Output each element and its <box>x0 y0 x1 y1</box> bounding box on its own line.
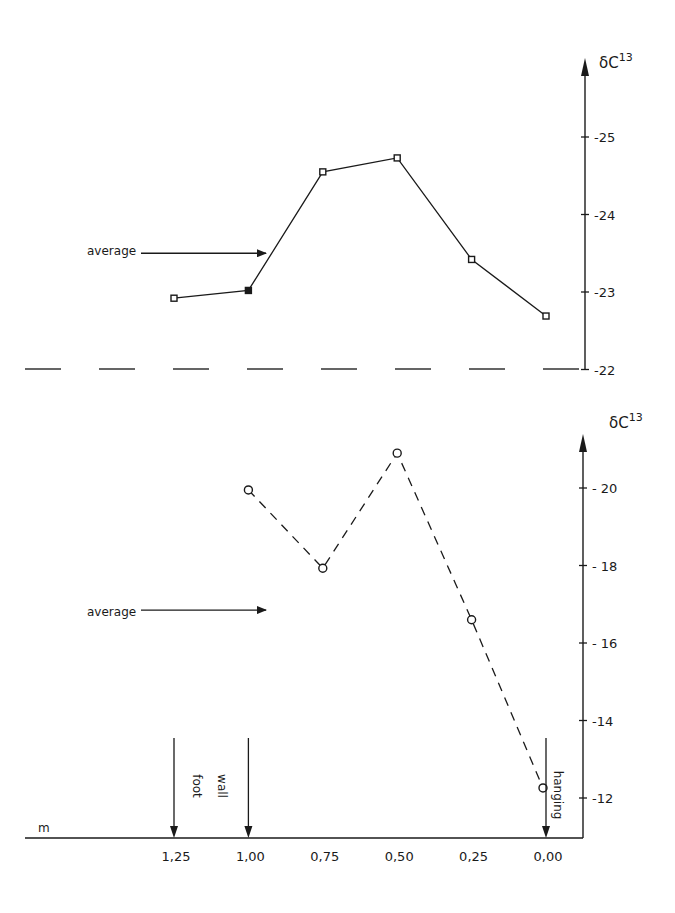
lower-y-tick-label: -14 <box>592 714 613 729</box>
boundary-marker-arrowhead <box>542 826 550 838</box>
lower-y-tick-label: - 20 <box>592 481 617 496</box>
x-tick-label: 0,75 <box>310 849 339 864</box>
upper-y-tick-label: -23 <box>594 285 615 300</box>
lower-series-points <box>244 449 547 792</box>
upper-panel: δC13 -25-24-23-22 average <box>25 51 633 378</box>
lower-average-label: average <box>87 605 136 619</box>
lower-average-annotation: average <box>87 605 266 619</box>
x-tick-label: 0,50 <box>385 849 414 864</box>
upper-data-point <box>469 256 475 262</box>
upper-y-axis-label: δC13 <box>599 51 633 72</box>
upper-average-annotation: average <box>87 244 266 258</box>
lower-data-point <box>393 449 401 457</box>
hanging-label: hanging <box>551 771 565 820</box>
x-axis-unit-label: m <box>38 821 50 835</box>
lower-y-tick-label: -12 <box>592 791 613 806</box>
upper-series-line <box>174 158 546 316</box>
lower-data-point <box>468 616 476 624</box>
lower-series-line <box>248 453 543 788</box>
x-tick-label: 1,00 <box>236 849 265 864</box>
upper-data-point <box>245 287 251 293</box>
x-tick-label: 0,25 <box>459 849 488 864</box>
upper-average-label: average <box>87 244 136 258</box>
lower-data-point <box>244 486 252 494</box>
x-tick-label: 0,00 <box>534 849 563 864</box>
upper-series-points <box>171 155 549 319</box>
upper-y-tick-label: -24 <box>594 208 615 223</box>
upper-y-ticks: -25-24-23-22 <box>581 130 615 378</box>
upper-data-point <box>320 169 326 175</box>
upper-y-tick-label: -25 <box>594 130 615 145</box>
lower-y-axis-arrow <box>579 434 587 452</box>
foot-label: foot <box>190 774 204 798</box>
lower-y-ticks: - 20- 18- 16-14-12 <box>579 481 617 806</box>
upper-y-tick-label: -22 <box>594 363 615 378</box>
upper-data-point <box>171 295 177 301</box>
lower-y-axis-label: δC13 <box>609 411 643 432</box>
lower-y-tick-label: - 18 <box>592 559 617 574</box>
lower-y-tick-label: - 16 <box>592 636 617 651</box>
delta-c13-profile-chart: δC13 -25-24-23-22 average δC13 m 1,251,0… <box>0 0 675 913</box>
upper-data-point <box>543 313 549 319</box>
lower-data-point <box>319 564 327 572</box>
upper-data-point <box>394 155 400 161</box>
wall-label: wall <box>215 774 229 798</box>
boundary-marker-arrowhead <box>244 826 252 838</box>
boundary-marker-arrowhead <box>170 826 178 838</box>
lower-panel: δC13 m 1,251,000,750,500,250,00 - 20- 18… <box>25 411 643 864</box>
upper-y-axis-arrow <box>581 58 589 76</box>
x-tick-labels: 1,251,000,750,500,250,00 <box>162 849 563 864</box>
x-tick-label: 1,25 <box>162 849 191 864</box>
